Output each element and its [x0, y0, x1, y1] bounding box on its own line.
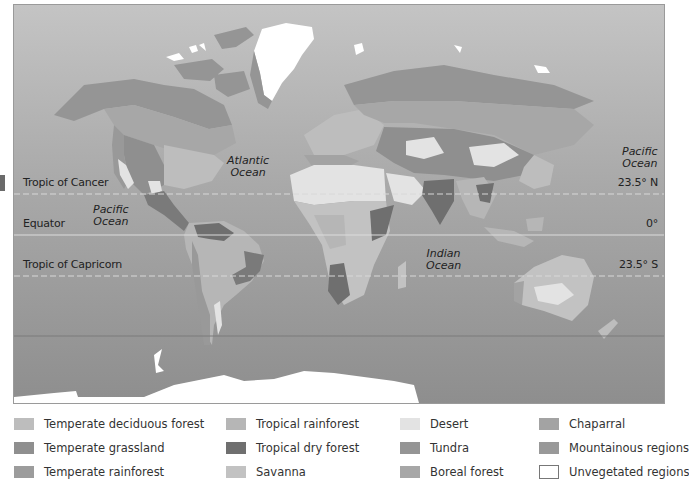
antarctica	[14, 371, 419, 403]
swatch-icon	[226, 466, 246, 478]
legend-item-temperate-grassland: Temperate grassland	[14, 438, 165, 458]
swatch-icon	[226, 418, 246, 430]
legend-item-unvegetated-regions: Unvegetated regions	[539, 462, 689, 482]
tropic-of-capricorn-label: Tropic of Capricorn	[23, 258, 122, 271]
legend-item-tropical-dry-forest: Tropical dry forest	[226, 438, 359, 458]
swatch-icon	[400, 466, 420, 478]
swatch-icon	[539, 442, 559, 454]
legend-item-savanna: Savanna	[226, 462, 306, 482]
latitude-23-5-s: 23.5° S	[619, 258, 658, 271]
world-biome-map: Tropic of Cancer Equator Tropic of Capri…	[13, 4, 665, 404]
side-marker	[0, 175, 5, 191]
legend-item-boreal-forest: Boreal forest	[400, 462, 504, 482]
pacific-ocean-label-west: Pacific Ocean	[93, 204, 129, 228]
greenland	[254, 23, 314, 101]
legend-item-temperate-deciduous-forest: Temperate deciduous forest	[14, 414, 204, 434]
atlantic-ocean-label: Atlantic Ocean	[227, 155, 269, 179]
swatch-icon	[14, 466, 34, 478]
swatch-icon	[14, 418, 34, 430]
legend-item-tropical-rainforest: Tropical rainforest	[226, 414, 359, 434]
swatch-icon	[14, 442, 34, 454]
legend-item-desert: Desert	[400, 414, 468, 434]
latitude-23-5-n: 23.5° N	[618, 176, 658, 189]
legend-item-temperate-rainforest: Temperate rainforest	[14, 462, 164, 482]
latitude-0: 0°	[646, 217, 658, 230]
legend-item-mountainous-regions: Mountainous regions	[539, 438, 689, 458]
swatch-icon	[539, 465, 559, 479]
swatch-icon	[226, 442, 246, 454]
swatch-icon	[400, 418, 420, 430]
biome-legend: Temperate deciduous forest Temperate gra…	[0, 408, 668, 484]
legend-item-tundra: Tundra	[400, 438, 469, 458]
legend-item-chaparral: Chaparral	[539, 414, 625, 434]
tropic-of-cancer-label: Tropic of Cancer	[23, 176, 108, 189]
swatch-icon	[539, 418, 559, 430]
indian-ocean-label: Indian Ocean	[426, 248, 461, 272]
swatch-icon	[400, 442, 420, 454]
equator-label: Equator	[23, 217, 65, 230]
pacific-ocean-label-east: Pacific Ocean	[622, 146, 658, 170]
